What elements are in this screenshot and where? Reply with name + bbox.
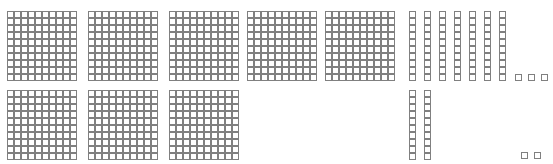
block-cell [21,25,28,32]
block-cell [204,53,211,60]
block-cell [484,53,491,60]
block-cell [197,111,204,118]
block-cell [275,11,282,18]
block-cell [218,39,225,46]
block-cell [56,139,63,146]
block-cell [388,39,395,46]
block-cell [169,104,176,111]
block-cell [56,132,63,139]
block-cell [353,25,360,32]
hundred-flat [169,11,239,81]
block-cell [144,153,151,160]
block-cell [232,11,239,18]
block-cell [332,46,339,53]
block-cell [275,32,282,39]
block-cell [95,90,102,97]
block-cell [190,97,197,104]
block-cell [88,104,95,111]
block-cell [21,67,28,74]
block-cell [35,97,42,104]
block-cell [70,97,77,104]
block-cell [367,18,374,25]
block-cell [360,18,367,25]
block-cell [275,74,282,81]
block-cell [21,11,28,18]
block-cell [130,60,137,67]
block-cell [21,18,28,25]
block-cell [261,53,268,60]
block-cell [225,39,232,46]
block-cell [303,32,310,39]
hundred-flat [325,11,395,81]
block-cell [232,39,239,46]
block-cell [454,39,461,46]
block-cell [28,25,35,32]
block-cell [218,104,225,111]
block-cell [109,25,116,32]
block-cell [409,139,416,146]
block-cell [116,104,123,111]
block-cell [225,46,232,53]
block-cell [95,25,102,32]
block-cell [424,67,431,74]
unit-cube [541,74,548,81]
block-cell [254,67,261,74]
block-cell [95,125,102,132]
block-cell [218,90,225,97]
block-cell [116,118,123,125]
block-cell [123,67,130,74]
block-cell [7,90,14,97]
block-cell [296,46,303,53]
unit-cube [521,152,528,159]
block-cell [261,11,268,18]
block-cell [109,146,116,153]
block-cell [439,74,446,81]
block-cell [63,18,70,25]
block-cell [325,11,332,18]
block-cell [454,32,461,39]
block-cell [137,139,144,146]
block-cell [353,67,360,74]
block-cell [102,74,109,81]
block-cell [424,118,431,125]
block-cell [183,104,190,111]
block-cell [225,60,232,67]
block-cell [218,11,225,18]
block-cell [130,32,137,39]
block-cell [232,104,239,111]
block-cell [197,146,204,153]
block-cell [268,25,275,32]
block-cell [204,60,211,67]
block-cell [21,97,28,104]
block-cell [35,18,42,25]
block-cell [439,18,446,25]
block-cell [409,132,416,139]
block-cell [49,125,56,132]
block-cell [116,46,123,53]
block-cell [360,25,367,32]
block-cell [130,53,137,60]
block-cell [109,118,116,125]
block-cell [102,111,109,118]
block-cell [183,18,190,25]
block-cell [14,25,21,32]
block-cell [28,74,35,81]
block-cell [360,67,367,74]
block-cell [21,90,28,97]
block-cell [49,104,56,111]
block-cell [14,139,21,146]
block-cell [95,18,102,25]
block-cell [151,146,158,153]
block-cell [218,139,225,146]
block-cell [409,153,416,160]
block-cell [130,39,137,46]
block-cell [102,67,109,74]
block-cell [424,139,431,146]
block-cell [190,67,197,74]
block-cell [225,67,232,74]
block-cell [183,97,190,104]
block-cell [21,111,28,118]
block-cell [296,39,303,46]
block-cell [353,53,360,60]
block-cell [282,18,289,25]
